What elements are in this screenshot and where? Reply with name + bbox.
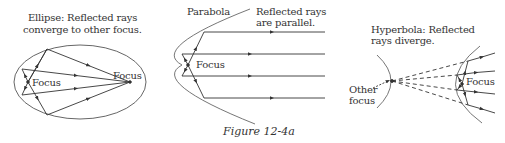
hyperbola-focus-label: Focus <box>466 76 495 87</box>
ellipse-left-focus-label: Focus <box>32 77 61 88</box>
figure-caption: Figure 12-4a <box>223 125 295 138</box>
parabola-title-line1: Reflected rays <box>256 6 326 17</box>
parabola-focus-label: Focus <box>196 59 225 70</box>
ellipse-right-focus-label: Focus <box>113 70 142 81</box>
other-focus-point <box>391 80 394 83</box>
other-focus-label-line2: focus <box>349 95 375 106</box>
parabola-curve-label: Parabola <box>187 6 230 17</box>
parabola-focus-point <box>187 64 190 67</box>
hyperbola-left-branch <box>377 55 391 108</box>
ellipse-title-line2: converge to other focus. <box>23 24 142 35</box>
hyperbola-title-line1: Hyperbola: Reflected <box>371 24 475 35</box>
hyperbola-title-line2: rays diverge. <box>371 35 435 46</box>
parabola-title-line2: are parallel. <box>256 17 315 28</box>
ellipse-title-line1: Ellipse: Reflected rays <box>28 12 137 23</box>
other-focus-label-line1: Other <box>349 84 377 95</box>
left-focus-point <box>27 81 30 84</box>
right-focus-point <box>129 81 132 84</box>
hyperbola-focus-point <box>461 83 464 86</box>
